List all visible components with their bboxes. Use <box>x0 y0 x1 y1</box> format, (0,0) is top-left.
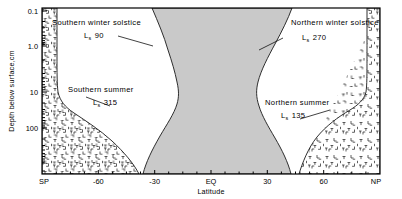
ls-value: 135 <box>292 111 306 120</box>
x-tick-labels: SP -60 -30 EQ 30 60 NP <box>39 177 381 186</box>
annotation-southern-summer-line2: Ls315 <box>93 98 117 108</box>
y-tick-label: 0.1 <box>28 7 38 16</box>
annotation-northern-summer-line1: Northern summer <box>265 98 329 107</box>
y-axis-title: Depth below surface,cm <box>7 50 16 132</box>
annotation-southern-summer-line1: Southern summer <box>68 85 134 94</box>
annotation-northern-winter-solstice-line1: Northern winter solstice <box>291 18 379 27</box>
x-tick-label: NP <box>371 177 381 186</box>
y-tick-labels: 0.1 1.0 10 100 <box>26 7 38 133</box>
y-tick-label: 100 <box>26 124 38 133</box>
ls-value: 315 <box>104 98 118 107</box>
x-tick-label: 60 <box>320 177 328 186</box>
y-tick-label: 10 <box>30 88 38 97</box>
x-tick-label: SP <box>39 177 49 186</box>
x-axis-title: Latitude <box>197 187 224 196</box>
x-tick-label: -30 <box>149 177 160 186</box>
ground-ice-depth-latitude-figure: 0.1 1.0 10 100 SP -60 -30 EQ 30 60 NP La… <box>0 0 402 199</box>
annotation-northern-summer-line2: Ls135 <box>281 111 305 121</box>
chart-canvas: 0.1 1.0 10 100 SP -60 -30 EQ 30 60 NP La… <box>0 0 402 199</box>
annotation-southern-winter-solstice-line1: Southern winter solstice <box>52 18 141 27</box>
x-tick-label: -60 <box>93 177 104 186</box>
annotation-northern-winter-solstice-line2: Ls270 <box>302 33 326 43</box>
annotation-southern-winter-solstice-line2: Ls90 <box>84 31 104 41</box>
x-tick-label: EQ <box>206 177 217 186</box>
y-tick-label: 1.0 <box>28 42 38 51</box>
ls-subscript: s <box>286 115 289 121</box>
ls-value: 90 <box>95 31 104 40</box>
x-tick-label: 30 <box>263 177 271 186</box>
ls-value: 270 <box>313 33 327 42</box>
ls-subscript: s <box>307 37 310 43</box>
ls-subscript: s <box>98 102 101 108</box>
ls-subscript: s <box>89 35 92 41</box>
